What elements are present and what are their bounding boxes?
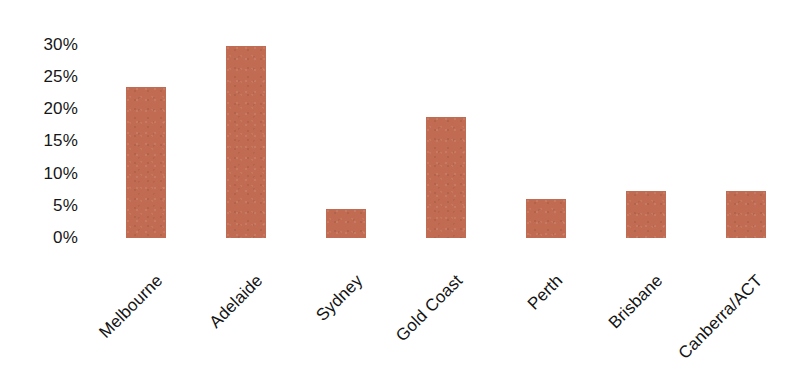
bar-gold-coast: [426, 117, 466, 238]
bar-adelaide: [226, 46, 266, 238]
bar-sydney: [326, 209, 366, 238]
y-axis-tick-label: 25%: [43, 67, 78, 87]
bar-melbourne: [126, 87, 166, 238]
bar-perth: [526, 199, 566, 238]
x-axis-label-canberra-act: Canberra/ACT: [675, 271, 767, 363]
y-axis-tick-label: 30%: [43, 35, 78, 55]
y-axis-tick-label: 20%: [43, 99, 78, 119]
plot-area: Melbourne Adelaide Sydney Gold Coast Per…: [92, 0, 812, 385]
y-axis-tick-label: 0%: [53, 228, 78, 248]
y-axis-tick-label: 5%: [53, 196, 78, 216]
x-axis-label-melbourne: Melbourne: [95, 271, 167, 343]
bar-brisbane: [626, 191, 666, 238]
y-axis-tick-label: 15%: [43, 131, 78, 151]
bar-canberra-act: [726, 191, 766, 238]
x-axis-label-perth: Perth: [524, 271, 567, 314]
x-axis-label-adelaide: Adelaide: [206, 271, 267, 332]
x-axis-label-sydney: Sydney: [312, 271, 367, 326]
y-axis: 30% 25% 20% 15% 10% 5% 0%: [0, 0, 92, 385]
y-axis-tick-label: 10%: [43, 164, 78, 184]
x-axis-label-gold-coast: Gold Coast: [392, 271, 467, 346]
x-axis-label-brisbane: Brisbane: [605, 271, 667, 333]
bar-chart: 30% 25% 20% 15% 10% 5% 0% Melbourne Adel…: [0, 0, 812, 385]
